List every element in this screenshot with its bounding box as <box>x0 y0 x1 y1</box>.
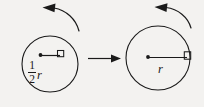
left-disk-center-dot <box>39 53 43 57</box>
left-distance-variable: r <box>37 69 42 82</box>
right-disk-distance-label: r <box>158 63 163 76</box>
right-disk-rotation-arrowhead <box>155 3 168 12</box>
transition-arrow-head <box>111 54 121 62</box>
right-disk-rotation-arc <box>166 8 191 29</box>
fraction-one-half: 1 2 <box>28 60 36 85</box>
transition-arrow-group <box>88 54 121 62</box>
right-disk-center-dot <box>146 55 150 59</box>
physics-diagram: 1 2 r r <box>0 0 204 107</box>
diagram-canvas <box>0 0 204 107</box>
left-disk-rotation-arc <box>54 8 79 31</box>
fraction-denominator: 2 <box>28 74 36 86</box>
right-disk-group <box>126 3 191 90</box>
left-disk-rotation-arrowhead <box>43 4 56 13</box>
fraction-numerator: 1 <box>28 60 36 72</box>
left-disk-distance-label: 1 2 r <box>28 60 42 85</box>
